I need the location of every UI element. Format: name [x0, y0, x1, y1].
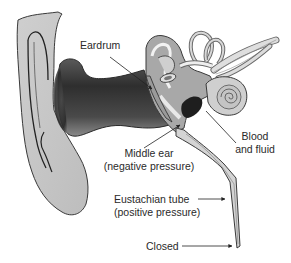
- label-blood-and-fluid: Blood and fluid: [225, 130, 285, 155]
- label-blood-line1: Blood: [225, 130, 285, 143]
- semicircular-canals: [180, 33, 223, 66]
- label-middle-ear-line2: (negative pressure): [99, 160, 199, 173]
- label-closed: Closed: [146, 240, 179, 253]
- label-middle-ear-line1: Middle ear: [99, 147, 199, 160]
- label-blood-line2: and fluid: [225, 143, 285, 156]
- label-middle-ear: Middle ear (negative pressure): [99, 147, 199, 172]
- label-eardrum: Eardrum: [80, 39, 120, 52]
- label-eustachian-line1: Eustachian tube: [114, 193, 200, 206]
- cochlea: [206, 77, 247, 116]
- label-eustachian-tube: Eustachian tube (positive pressure): [114, 193, 200, 218]
- label-eustachian-line2: (positive pressure): [114, 206, 200, 219]
